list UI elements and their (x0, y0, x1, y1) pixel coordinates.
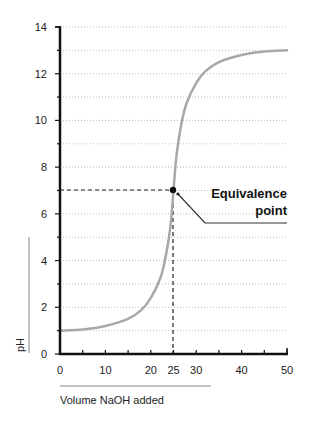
y-tick-label: 2 (41, 301, 47, 313)
y-tick-label: 4 (41, 255, 47, 267)
y-tick-label: 12 (35, 68, 47, 80)
equivalence-point-marker (170, 187, 176, 193)
x-tick-label: 30 (190, 364, 202, 376)
y-tick-labels: 02468101214 (35, 21, 47, 360)
x-tick-labels: 0102025304050 (57, 364, 293, 376)
x-tick-label: 25 (167, 364, 179, 376)
x-tick-label: 40 (235, 364, 247, 376)
annotation-label-line1: Equivalence (211, 186, 287, 201)
y-tick-label: 0 (41, 348, 47, 360)
y-tick-label: 10 (35, 114, 47, 126)
x-axis-title: Volume NaOH added (60, 394, 164, 406)
y-tick-label: 6 (41, 208, 47, 220)
y-tick-label: 14 (35, 21, 47, 33)
y-axis-title: pH (14, 338, 26, 352)
titration-chart: 02468101214 0102025304050 pH Volume NaOH… (0, 0, 309, 422)
x-tick-label: 0 (57, 364, 63, 376)
y-tick-label: 8 (41, 161, 47, 173)
annotation-label-line2: point (255, 203, 287, 218)
x-tick-label: 10 (99, 364, 111, 376)
x-tick-label: 20 (145, 364, 157, 376)
x-tick-label: 50 (281, 364, 293, 376)
